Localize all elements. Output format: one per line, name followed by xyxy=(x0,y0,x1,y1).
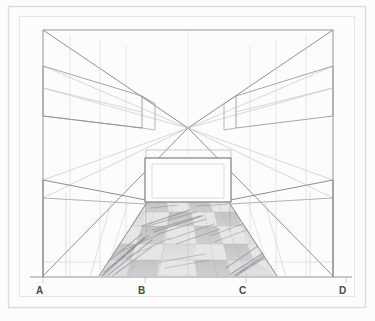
label-point-b: B xyxy=(138,286,145,296)
upper-cabinet-right xyxy=(224,66,333,130)
back-wall xyxy=(145,158,231,202)
counter-right xyxy=(230,180,333,277)
label-point-d: D xyxy=(339,286,346,296)
label-point-a: A xyxy=(36,286,43,296)
counter-left xyxy=(43,180,146,277)
soffit-lines xyxy=(146,150,231,158)
construction-lines-layer xyxy=(0,0,375,321)
upper-cabinet-left xyxy=(43,66,155,130)
frame-inner xyxy=(20,17,355,297)
frame-outer xyxy=(9,7,366,308)
label-point-c: C xyxy=(239,286,246,296)
wall-construction-lines xyxy=(70,30,306,276)
baseline-ticks xyxy=(43,277,346,283)
drawing-canvas: A B C D xyxy=(0,0,375,321)
